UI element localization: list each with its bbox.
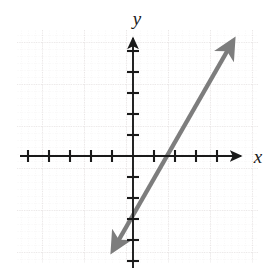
y-axis-label: y bbox=[131, 8, 142, 29]
grid-rect bbox=[17, 30, 258, 263]
x-axis-label: x bbox=[253, 146, 263, 167]
grid-layer bbox=[17, 30, 258, 263]
graph-figure: x y bbox=[0, 0, 277, 272]
coordinate-plane-svg: x y bbox=[0, 0, 277, 272]
